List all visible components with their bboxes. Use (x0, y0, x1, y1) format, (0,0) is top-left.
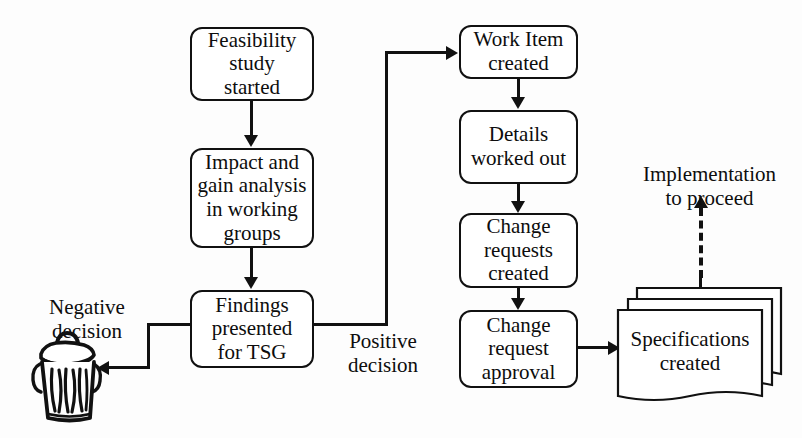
edge-findings-to-workitem-arrowhead (446, 46, 458, 60)
line: Specifications (631, 327, 750, 351)
edge-findings-to-trash-arrowhead (97, 361, 109, 375)
label-positive-decision: Positive decision (322, 330, 444, 378)
node-feasibility-study-text: Feasibilitystudystarted (196, 29, 308, 100)
node-specifications-created-text: Specifications created (618, 328, 762, 376)
label-implementation-to-proceed: Implementation to proceed (622, 163, 797, 211)
line: Change (465, 215, 572, 239)
scan-artifact (28, 26, 33, 48)
line: Feasibility (196, 29, 308, 53)
line: created (465, 262, 572, 286)
line: Findings (196, 294, 308, 318)
node-feasibility-study[interactable]: Feasibilitystudystarted (190, 27, 314, 101)
node-details-worked-out[interactable]: Detailsworked out (459, 110, 578, 184)
line: gain analysis (196, 174, 308, 198)
flowchart-canvas: Feasibilitystudystarted Impact andgain a… (0, 0, 802, 438)
line: presented (196, 317, 308, 341)
line: Details (465, 123, 572, 147)
line: in working (196, 198, 308, 222)
edge-findings-to-trash-segment-h2 (108, 366, 150, 369)
line: request (465, 337, 572, 361)
edge-feasibility-to-impact (250, 101, 253, 137)
node-work-item-created[interactable]: Work Itemcreated (459, 25, 578, 79)
node-change-requests-created[interactable]: Changerequestscreated (459, 213, 578, 288)
edge-findings-to-workitem-segment-v (385, 51, 388, 325)
node-findings-presented[interactable]: Findingspresentedfor TSG (190, 290, 314, 368)
edge-specifications-to-implementation (699, 208, 703, 278)
edge-impact-to-findings (250, 248, 253, 278)
line: requests (465, 239, 572, 263)
edge-changerequests-to-approval-arrowhead (511, 298, 525, 310)
line: Change (465, 314, 572, 338)
line: for TSG (196, 341, 308, 365)
edge-feasibility-to-impact-arrowhead (244, 135, 258, 147)
edge-approval-to-specifications (577, 346, 612, 349)
line: study (196, 52, 308, 76)
line: Impact and (196, 151, 308, 175)
line: created (465, 52, 572, 76)
edge-workitem-to-details (517, 79, 520, 99)
node-change-requests-created-text: Changerequestscreated (465, 215, 572, 286)
label-negative-decision: Negative decision (12, 296, 162, 344)
line: approval (465, 361, 572, 385)
node-impact-gain-analysis-text: Impact andgain analysisin workinggroups (196, 151, 308, 245)
edge-findings-to-workitem-segment-h2 (385, 51, 447, 54)
line: groups (196, 222, 308, 246)
line: Work Item (465, 28, 572, 52)
node-impact-gain-analysis[interactable]: Impact andgain analysisin workinggroups (190, 148, 314, 248)
edge-findings-to-workitem-segment-h1 (313, 323, 388, 326)
line: worked out (465, 147, 572, 171)
edge-workitem-to-details-arrowhead (511, 97, 525, 109)
node-findings-presented-text: Findingspresentedfor TSG (196, 294, 308, 365)
edge-details-to-changerequests-arrowhead (511, 201, 525, 213)
line: created (660, 351, 721, 375)
node-details-worked-out-text: Detailsworked out (465, 123, 572, 170)
edge-impact-to-findings-arrowhead (244, 277, 258, 289)
node-work-item-created-text: Work Itemcreated (465, 28, 572, 75)
node-change-request-approval[interactable]: Changerequestapproval (459, 310, 578, 388)
line: started (196, 76, 308, 100)
node-change-request-approval-text: Changerequestapproval (465, 314, 572, 385)
